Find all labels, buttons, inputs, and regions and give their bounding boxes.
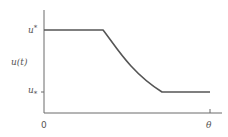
theta-label: θ — [206, 120, 212, 130]
origin-label: 0 — [41, 120, 47, 130]
u-of-t-curve — [44, 30, 210, 92]
u-star-lower-label: u* — [28, 85, 38, 98]
control-profile-chart: u* u(t) u* 0 θ — [0, 0, 228, 137]
u-star-upper-label: u* — [28, 24, 38, 35]
y-axis-label: u(t) — [11, 57, 28, 67]
